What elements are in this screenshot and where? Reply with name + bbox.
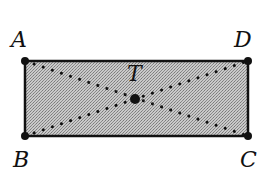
- vertex-c-label: C: [240, 147, 257, 172]
- vertex-b-label: B: [12, 147, 29, 172]
- rectangle-diagram: A D C B T: [0, 0, 273, 185]
- vertex-d-point: [244, 57, 252, 65]
- vertex-b-point: [21, 132, 29, 140]
- vertex-a-point: [21, 57, 29, 65]
- vertex-a-label: A: [9, 27, 27, 52]
- center-t-label: T: [127, 61, 144, 86]
- center-t-point: [130, 94, 140, 104]
- vertex-c-point: [244, 132, 252, 140]
- vertex-d-label: D: [233, 27, 252, 52]
